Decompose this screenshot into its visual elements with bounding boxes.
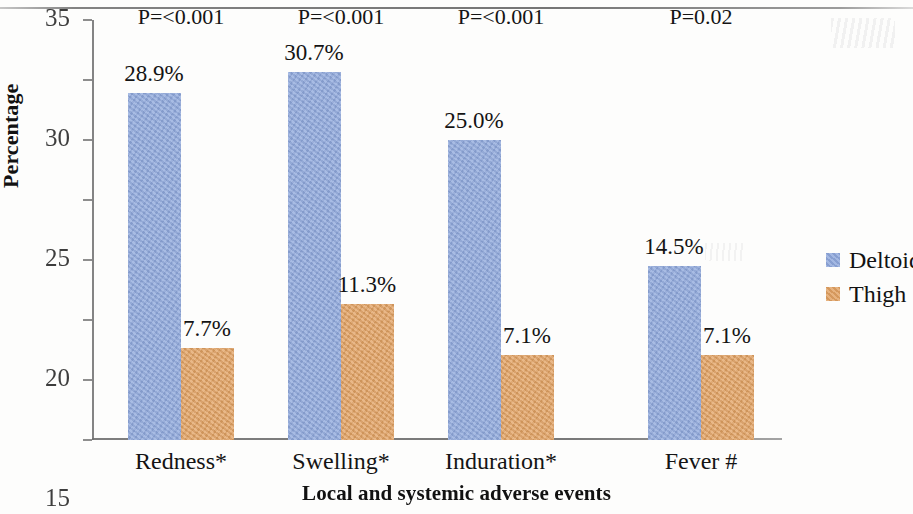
chart-page: Percentage 05101520253035 28.9%7.7%P=<0.… <box>0 0 913 514</box>
bar-value-label: 30.7% <box>284 40 343 66</box>
plot-area: 05101520253035 28.9%7.7%P=<0.001Redness*… <box>92 20 782 440</box>
y-axis-tick: 5 <box>83 379 92 381</box>
legend-swatch-icon <box>826 287 840 301</box>
x-axis-category-label: Induration* <box>445 448 557 475</box>
bar-group: 25.0%7.1%P=<0.001Induration* <box>448 20 554 440</box>
x-axis-category-label: Fever # <box>665 448 738 475</box>
p-value-annotation: P=<0.001 <box>138 4 225 30</box>
p-value-annotation: P=<0.001 <box>458 4 545 30</box>
legend-swatch-icon <box>826 253 840 267</box>
bar-value-label: 28.9% <box>124 61 183 87</box>
p-value-annotation: P=<0.001 <box>298 4 385 30</box>
bar-deltoid <box>648 266 701 440</box>
legend-label: Deltoid <box>849 247 913 274</box>
bar-value-label: 25.0% <box>444 108 503 134</box>
bar-value-label: 7.1% <box>503 323 551 349</box>
bar-value-label: 7.1% <box>703 323 751 349</box>
x-axis-category-label: Swelling* <box>292 448 389 475</box>
y-axis-tick: 35 <box>83 19 92 21</box>
bar-group: 28.9%7.7%P=<0.001Redness* <box>128 20 234 440</box>
bar-thigh <box>501 355 554 440</box>
legend-item[interactable]: Deltoid <box>826 243 913 277</box>
y-axis-tick-label: 20 <box>45 364 70 392</box>
y-axis-tick: 10 <box>83 319 92 321</box>
x-axis-category-label: Redness* <box>135 448 227 475</box>
legend-label: Thigh <box>849 281 906 308</box>
bar-value-label: 14.5% <box>644 234 703 260</box>
y-axis-tick: 0 <box>83 439 92 441</box>
bar-thigh <box>341 304 394 440</box>
y-axis-title: Percentage <box>0 84 24 188</box>
y-axis-tick: 15 <box>83 259 92 261</box>
bar-thigh <box>181 348 234 440</box>
y-axis-tick-label: 30 <box>45 124 70 152</box>
p-value-annotation: P=0.02 <box>669 4 732 30</box>
bar-deltoid <box>448 140 501 440</box>
y-axis-tick-label: 35 <box>45 4 70 32</box>
bar-group: 14.5%7.1%P=0.02Fever # <box>648 20 754 440</box>
chart-legend: DeltoidThigh <box>826 243 913 311</box>
x-axis-title: Local and systemic adverse events <box>0 481 913 506</box>
scan-artifact <box>831 18 895 48</box>
y-axis-tick: 25 <box>83 139 92 141</box>
bar-value-label: 11.3% <box>338 272 397 298</box>
bar-group: 30.7%11.3%P=<0.001Swelling* <box>288 20 394 440</box>
legend-item[interactable]: Thigh <box>826 277 913 311</box>
bar-value-label: 7.7% <box>183 316 231 342</box>
bar-deltoid <box>288 72 341 440</box>
bar-deltoid <box>128 93 181 440</box>
bar-thigh <box>701 355 754 440</box>
y-axis-tick-label: 25 <box>45 244 70 272</box>
y-axis-tick: 30 <box>83 79 92 81</box>
y-axis-tick: 20 <box>83 199 92 201</box>
y-axis-line <box>92 20 94 440</box>
